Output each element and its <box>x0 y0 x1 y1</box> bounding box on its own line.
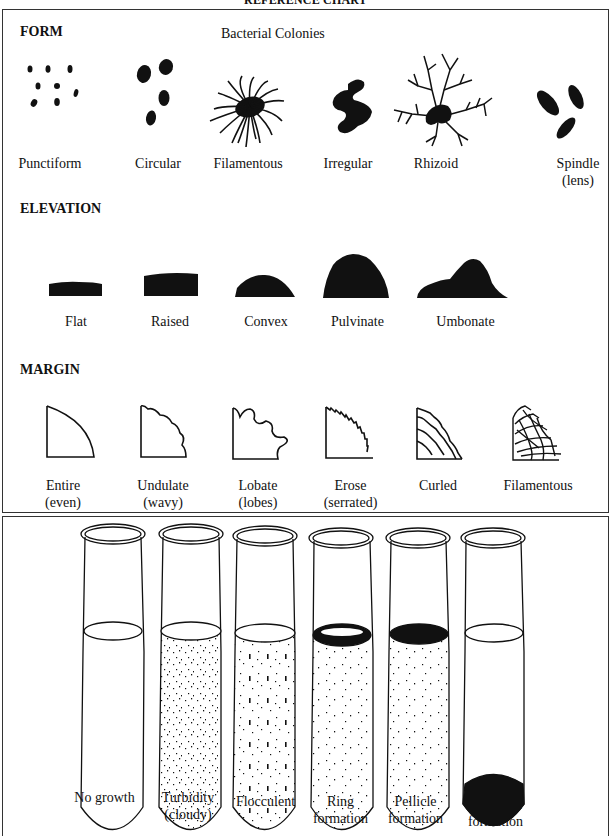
circular-icon <box>133 60 183 130</box>
tube-label-sediment: Sediment formation <box>458 796 533 830</box>
tube-sediment-formation <box>461 528 525 826</box>
margin-label-entire-main: Entire <box>33 477 93 494</box>
margin-undulate-icon <box>140 405 190 459</box>
tube-turbidity <box>159 524 223 830</box>
tube-ring-formation <box>309 528 373 830</box>
tube-label-flocculent: Flocculent <box>228 793 303 810</box>
form-label-punctiform: Punctiform <box>5 155 95 172</box>
margin-erose-icon <box>325 406 377 460</box>
elevation-pulvinate-icon <box>323 253 391 299</box>
margin-label-lobate-sub: (lobes) <box>228 494 288 511</box>
elevation-umbonate-icon <box>416 257 510 299</box>
margin-label-undulate-main: Undulate <box>128 477 198 494</box>
tube-label-ring: Ring formation <box>303 793 378 827</box>
tube-label-pellicle-main: Pellicle <box>378 793 453 810</box>
irregular-icon <box>328 78 378 138</box>
form-label-spindle-sub: (lens) <box>548 172 608 189</box>
margin-entire-icon <box>46 405 96 459</box>
elevation-label-umbonate: Umbonate <box>423 313 508 330</box>
punctiform-icon <box>23 60 83 110</box>
margin-label-entire: Entire (even) <box>33 477 93 511</box>
margin-label-erose-main: Erose <box>313 477 388 494</box>
elevation-heading: ELEVATION <box>20 201 101 217</box>
elevation-convex-icon <box>235 274 297 298</box>
broth-growth-panel: No growth Turbidity (cloudy) Flocculent … <box>2 516 609 836</box>
margin-heading: MARGIN <box>20 362 80 378</box>
margin-label-entire-sub: (even) <box>33 494 93 511</box>
tube-label-pellicle-sub: formation <box>378 810 453 827</box>
form-label-filamentous: Filamentous <box>203 155 293 172</box>
spindle-icon <box>533 85 603 145</box>
chart-title: REFERENCE CHART <box>0 0 611 8</box>
form-label-circular: Circular <box>118 155 198 172</box>
margin-lobate-icon <box>232 407 294 461</box>
elevation-label-flat: Flat <box>46 313 106 330</box>
margin-label-lobate: Lobate (lobes) <box>228 477 288 511</box>
margin-curled-icon <box>416 407 466 461</box>
tube-label-turbidity: Turbidity (cloudy) <box>153 789 223 823</box>
tube-no-growth <box>81 524 145 830</box>
tube-label-sediment-main: Sediment <box>458 796 533 813</box>
colony-characteristics-panel: FORM Bacterial Colonies <box>2 9 609 513</box>
tube-label-ring-sub: formation <box>303 810 378 827</box>
tube-pellicle-formation <box>386 528 450 830</box>
form-label-spindle-main: Spindle <box>548 155 608 172</box>
margin-label-undulate-sub: (wavy) <box>128 494 198 511</box>
tube-label-ring-main: Ring <box>303 793 378 810</box>
tube-label-pellicle: Pellicle formation <box>378 793 453 827</box>
elevation-label-convex: Convex <box>231 313 301 330</box>
elevation-flat-icon <box>47 280 103 300</box>
colonies-subtitle: Bacterial Colonies <box>221 25 325 42</box>
form-heading: FORM <box>20 24 63 40</box>
elevation-raised-icon <box>143 272 199 298</box>
margin-label-curled: Curled <box>408 477 468 494</box>
margin-label-erose-sub: (serrated) <box>313 494 388 511</box>
tube-label-turbidity-sub: (cloudy) <box>153 806 223 823</box>
tube-flocculent <box>233 526 297 830</box>
rhizoid-icon <box>388 50 498 150</box>
margin-label-erose: Erose (serrated) <box>313 477 388 511</box>
elevation-label-pulvinate: Pulvinate <box>320 313 395 330</box>
margin-filamentous-icon <box>509 404 567 462</box>
margin-label-undulate: Undulate (wavy) <box>128 477 198 511</box>
margin-label-filamentous: Filamentous <box>493 477 583 494</box>
tube-label-sediment-sub: formation <box>458 813 533 830</box>
elevation-label-raised: Raised <box>140 313 200 330</box>
filamentous-colony-icon <box>206 75 286 150</box>
form-label-rhizoid: Rhizoid <box>396 155 476 172</box>
tube-label-turbidity-main: Turbidity <box>153 789 223 806</box>
form-label-spindle: Spindle (lens) <box>548 155 608 189</box>
form-label-irregular: Irregular <box>308 155 388 172</box>
margin-label-lobate-main: Lobate <box>228 477 288 494</box>
tube-label-no-growth: No growth <box>67 789 142 806</box>
